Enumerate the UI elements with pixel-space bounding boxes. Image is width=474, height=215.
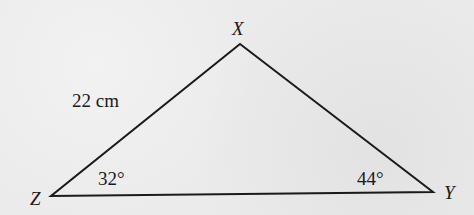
vertex-label-z: Z xyxy=(30,189,41,208)
side-label-zx: 22 cm xyxy=(72,91,119,110)
angle-label-y: 44° xyxy=(357,169,384,188)
vertex-label-y: Y xyxy=(444,183,455,202)
angle-label-z: 32° xyxy=(98,169,125,188)
vertex-label-x: X xyxy=(232,19,244,38)
diagram-canvas: X Y Z 22 cm 32° 44° xyxy=(0,0,474,215)
